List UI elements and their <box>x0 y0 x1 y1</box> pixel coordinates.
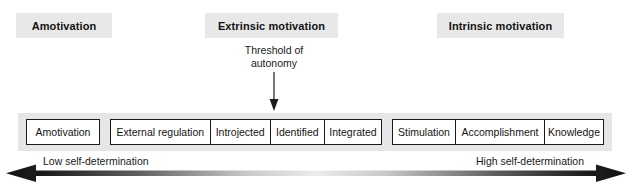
regulation-box-label: Identified <box>276 126 319 138</box>
regulation-box-label: Stimulation <box>398 126 450 138</box>
category-header-extrinsic-motivation-label: Extrinsic motivation <box>218 20 325 32</box>
regulation-group-amotivation: Amotivation <box>26 119 100 145</box>
regulation-box-label: Knowledge <box>548 126 600 138</box>
regulation-box-label: Integrated <box>329 126 376 138</box>
regulation-box[interactable]: Knowledge <box>544 120 603 144</box>
regulation-box-label: Amotivation <box>36 126 91 138</box>
threshold-down-arrow-icon <box>264 72 284 112</box>
regulation-group-extrinsic: External regulation Introjected Identifi… <box>110 119 382 145</box>
regulation-box-label: External regulation <box>117 126 205 138</box>
regulation-box[interactable]: Amotivation <box>27 120 99 144</box>
regulation-box[interactable]: Stimulation <box>393 120 455 144</box>
regulation-box-label: Accomplishment <box>461 126 538 138</box>
category-header-intrinsic-motivation-label: Intrinsic motivation <box>449 20 552 32</box>
regulation-box[interactable]: Integrated <box>324 120 381 144</box>
category-header-intrinsic-motivation: Intrinsic motivation <box>437 13 564 38</box>
category-header-amotivation-label: Amotivation <box>32 20 97 32</box>
threshold-annotation-line1: Threshold of <box>214 44 334 57</box>
regulation-box[interactable]: External regulation <box>111 120 210 144</box>
self-determination-continuum-diagram: Amotivation Extrinsic motivation Intrins… <box>0 0 632 193</box>
regulation-box[interactable]: Identified <box>270 120 324 144</box>
regulation-box[interactable]: Accomplishment <box>455 120 544 144</box>
regulation-box[interactable]: Introjected <box>210 120 270 144</box>
threshold-annotation-line2: autonomy <box>214 57 334 70</box>
regulation-group-intrinsic: Stimulation Accomplishment Knowledge <box>392 119 604 145</box>
category-header-extrinsic-motivation: Extrinsic motivation <box>205 13 338 38</box>
threshold-annotation: Threshold of autonomy <box>214 44 334 70</box>
self-determination-axis-arrow-icon <box>0 163 632 189</box>
regulation-box-label: Introjected <box>216 126 265 138</box>
category-header-amotivation: Amotivation <box>16 13 112 38</box>
